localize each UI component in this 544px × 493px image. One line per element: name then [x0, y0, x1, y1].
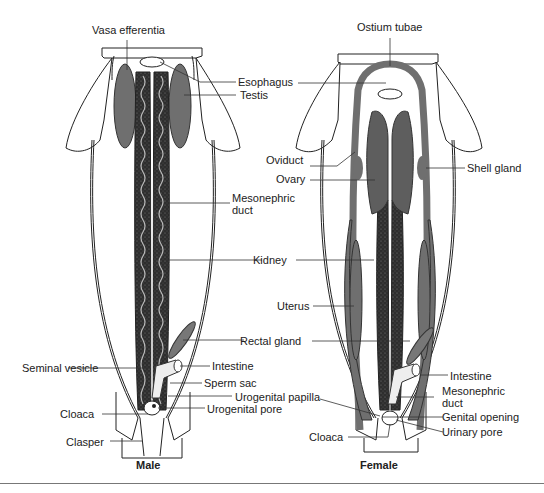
male-cloaca	[144, 401, 160, 415]
label-sperm-sac: Sperm sac	[204, 377, 257, 389]
caption-female: Female	[360, 459, 398, 471]
label-shell-gland: Shell gland	[467, 162, 521, 174]
label-line-1: Mesonephric	[442, 385, 505, 397]
label-genital-opening: Genital opening	[442, 411, 519, 423]
label-mesonephric-duct-female: Mesonephric duct	[442, 385, 505, 409]
label-ovary: Ovary	[276, 173, 305, 185]
label-kidney: Kidney	[253, 254, 287, 266]
female-ovary-right	[392, 111, 413, 214]
label-intestine-female: Intestine	[450, 370, 492, 382]
label-line-2: duct	[232, 204, 295, 216]
label-uterus: Uterus	[277, 300, 309, 312]
label-urogenital-papilla: Urogenital papilla	[235, 391, 320, 403]
label-mesonephric-duct-male: Mesonephric duct	[232, 192, 295, 216]
caption-male: Male	[136, 459, 160, 471]
male-testis-left	[114, 64, 136, 148]
male-testis-right	[169, 64, 191, 148]
label-testis: Testis	[240, 89, 268, 101]
bottom-divider	[0, 483, 544, 484]
label-vasa-efferentia: Vasa efferentia	[92, 24, 165, 36]
label-urinary-pore: Urinary pore	[442, 426, 503, 438]
label-oviduct: Oviduct	[266, 154, 303, 166]
label-seminal-vesicle: Seminal vesicle	[22, 362, 98, 374]
label-clasper: Clasper	[66, 436, 104, 448]
label-rectal-gland: Rectal gland	[240, 335, 301, 347]
label-cloaca-female: Cloaca	[309, 431, 343, 443]
female-cloaca	[382, 411, 398, 425]
female-ovary-left	[367, 111, 388, 214]
label-urogenital-pore: Urogenital pore	[207, 403, 282, 415]
label-esophagus: Esophagus	[238, 76, 293, 88]
label-line-1: Mesonephric	[232, 192, 295, 204]
label-line-2: duct	[442, 397, 505, 409]
female-esophagus	[378, 89, 402, 99]
label-cloaca-male: Cloaca	[60, 408, 94, 420]
label-ostium-tubae: Ostium tubae	[357, 21, 422, 33]
label-intestine-male: Intestine	[212, 360, 254, 372]
